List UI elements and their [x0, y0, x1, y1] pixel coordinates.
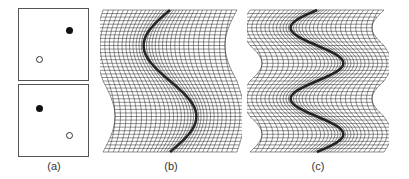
panel-a-bottom-box: [18, 84, 89, 157]
hollow-point: [36, 56, 43, 63]
hollow-point: [66, 132, 73, 139]
panel-a-top-box: [18, 8, 89, 81]
panel-c-warped-grid: [247, 8, 389, 156]
panel-a-label: (a): [34, 160, 74, 172]
filled-point: [36, 105, 43, 112]
panel-b-warped-grid: [100, 8, 242, 156]
panel-b-label: (b): [151, 160, 191, 172]
filled-point: [66, 27, 73, 34]
panel-c-label: (c): [298, 160, 338, 172]
